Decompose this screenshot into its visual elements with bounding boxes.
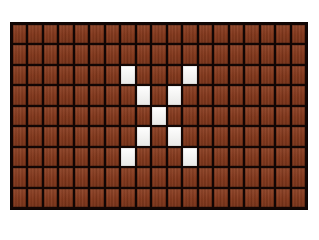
grid-cell-brick[interactable] — [261, 45, 275, 64]
grid-cell-brick[interactable] — [276, 45, 290, 64]
grid-cell-marker[interactable] — [137, 127, 151, 146]
grid-cell-brick[interactable] — [13, 127, 27, 146]
grid-cell-brick[interactable] — [90, 45, 104, 64]
grid-cell-brick[interactable] — [199, 127, 213, 146]
grid-cell-brick[interactable] — [28, 86, 42, 105]
grid-cell-brick[interactable] — [276, 107, 290, 126]
grid-cell-brick[interactable] — [44, 127, 58, 146]
grid-cell-brick[interactable] — [261, 66, 275, 85]
grid-cell-brick[interactable] — [292, 107, 306, 126]
grid-cell-brick[interactable] — [44, 66, 58, 85]
grid-cell-brick[interactable] — [44, 107, 58, 126]
grid-cell-brick[interactable] — [292, 168, 306, 187]
grid-cell-brick[interactable] — [245, 86, 259, 105]
grid-cell-brick[interactable] — [59, 25, 73, 44]
grid-cell-brick[interactable] — [214, 86, 228, 105]
grid-cell-brick[interactable] — [214, 148, 228, 167]
grid-cell-brick[interactable] — [152, 45, 166, 64]
grid-cell-brick[interactable] — [245, 168, 259, 187]
grid-cell-brick[interactable] — [245, 45, 259, 64]
grid-cell-brick[interactable] — [121, 86, 135, 105]
grid-cell-brick[interactable] — [59, 168, 73, 187]
grid-cell-brick[interactable] — [90, 148, 104, 167]
grid-cell-marker[interactable] — [152, 107, 166, 126]
grid-cell-brick[interactable] — [28, 45, 42, 64]
grid-cell-brick[interactable] — [183, 168, 197, 187]
grid-cell-brick[interactable] — [245, 66, 259, 85]
grid-cell-brick[interactable] — [59, 189, 73, 208]
brick-wall-grid[interactable] — [10, 22, 308, 210]
grid-cell-brick[interactable] — [183, 127, 197, 146]
grid-cell-brick[interactable] — [245, 25, 259, 44]
grid-cell-brick[interactable] — [106, 86, 120, 105]
grid-cell-brick[interactable] — [28, 127, 42, 146]
grid-cell-brick[interactable] — [214, 168, 228, 187]
grid-cell-brick[interactable] — [199, 66, 213, 85]
grid-cell-brick[interactable] — [152, 66, 166, 85]
grid-cell-brick[interactable] — [28, 107, 42, 126]
grid-cell-brick[interactable] — [28, 189, 42, 208]
grid-cell-brick[interactable] — [152, 189, 166, 208]
grid-cell-brick[interactable] — [13, 189, 27, 208]
grid-cell-brick[interactable] — [59, 86, 73, 105]
grid-cell-brick[interactable] — [28, 148, 42, 167]
grid-cell-brick[interactable] — [292, 45, 306, 64]
grid-cell-brick[interactable] — [230, 66, 244, 85]
grid-cell-brick[interactable] — [137, 107, 151, 126]
grid-cell-brick[interactable] — [106, 66, 120, 85]
grid-cell-brick[interactable] — [90, 168, 104, 187]
grid-cell-brick[interactable] — [106, 45, 120, 64]
grid-cell-brick[interactable] — [44, 25, 58, 44]
grid-cell-brick[interactable] — [44, 168, 58, 187]
grid-cell-brick[interactable] — [261, 86, 275, 105]
grid-cell-brick[interactable] — [90, 66, 104, 85]
grid-cell-brick[interactable] — [59, 45, 73, 64]
grid-cell-brick[interactable] — [137, 66, 151, 85]
grid-cell-marker[interactable] — [168, 127, 182, 146]
grid-cell-brick[interactable] — [276, 189, 290, 208]
grid-cell-brick[interactable] — [214, 45, 228, 64]
grid-cell-brick[interactable] — [75, 127, 89, 146]
grid-cell-brick[interactable] — [13, 66, 27, 85]
grid-cell-brick[interactable] — [292, 86, 306, 105]
grid-cell-brick[interactable] — [261, 107, 275, 126]
grid-cell-brick[interactable] — [183, 25, 197, 44]
grid-cell-marker[interactable] — [183, 148, 197, 167]
grid-cell-brick[interactable] — [121, 107, 135, 126]
grid-cell-brick[interactable] — [292, 66, 306, 85]
grid-cell-marker[interactable] — [168, 86, 182, 105]
grid-cell-brick[interactable] — [276, 148, 290, 167]
grid-cell-marker[interactable] — [121, 66, 135, 85]
grid-cell-brick[interactable] — [137, 45, 151, 64]
grid-cell-brick[interactable] — [292, 148, 306, 167]
grid-cell-brick[interactable] — [28, 168, 42, 187]
grid-cell-brick[interactable] — [230, 86, 244, 105]
grid-cell-brick[interactable] — [90, 127, 104, 146]
grid-cell-marker[interactable] — [121, 148, 135, 167]
grid-cell-brick[interactable] — [13, 25, 27, 44]
grid-cell-brick[interactable] — [44, 148, 58, 167]
grid-cell-brick[interactable] — [168, 107, 182, 126]
grid-cell-brick[interactable] — [137, 148, 151, 167]
grid-cell-brick[interactable] — [276, 25, 290, 44]
grid-cell-brick[interactable] — [75, 168, 89, 187]
grid-cell-brick[interactable] — [214, 127, 228, 146]
grid-cell-brick[interactable] — [75, 148, 89, 167]
grid-cell-brick[interactable] — [292, 25, 306, 44]
grid-cell-brick[interactable] — [152, 168, 166, 187]
grid-cell-brick[interactable] — [152, 127, 166, 146]
grid-cell-brick[interactable] — [106, 168, 120, 187]
grid-cell-brick[interactable] — [13, 168, 27, 187]
grid-cell-brick[interactable] — [90, 86, 104, 105]
grid-cell-brick[interactable] — [44, 189, 58, 208]
grid-cell-brick[interactable] — [121, 127, 135, 146]
grid-cell-brick[interactable] — [13, 45, 27, 64]
grid-cell-brick[interactable] — [183, 86, 197, 105]
grid-cell-brick[interactable] — [214, 66, 228, 85]
grid-cell-brick[interactable] — [292, 189, 306, 208]
grid-cell-brick[interactable] — [90, 25, 104, 44]
grid-cell-brick[interactable] — [199, 168, 213, 187]
grid-cell-brick[interactable] — [168, 25, 182, 44]
grid-cell-brick[interactable] — [44, 86, 58, 105]
grid-cell-brick[interactable] — [214, 107, 228, 126]
